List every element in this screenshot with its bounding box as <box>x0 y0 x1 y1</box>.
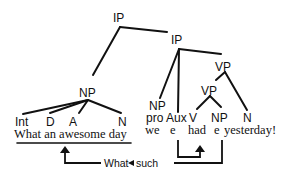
node-ip-top: IP <box>113 11 124 25</box>
branch-ip-to-np-pro <box>160 49 179 98</box>
node-np-subject: NP <box>79 86 96 100</box>
branch-ip-top-to-np <box>93 27 120 75</box>
word-yesterday: yesterday! <box>224 123 276 137</box>
word-e-aux: e <box>170 123 176 137</box>
word-had: had <box>188 123 207 137</box>
branch-vp-to-n <box>225 72 247 110</box>
word-e-obj: e <box>214 123 220 137</box>
tree-branches <box>23 27 247 114</box>
arrowhead-left-such <box>128 160 134 166</box>
word-phrase: What an awesome day <box>14 127 128 141</box>
arrowhead-up-v <box>195 145 205 152</box>
branch-ip-to-vp <box>179 49 221 54</box>
arrow-aux-to-v <box>178 140 200 157</box>
arrow-what-to-phrase <box>65 152 101 163</box>
movement-label-what: What <box>104 157 129 169</box>
arrowhead-up-phrase <box>60 146 70 153</box>
syntax-tree-diagram: IP IP NP VP VP NP Int D A N pro Aux V NP… <box>0 0 294 177</box>
branch-np-to-n <box>88 100 121 113</box>
branch-ip-top-to-ip <box>120 27 167 32</box>
branch-ip-to-aux <box>178 49 179 112</box>
movement-label-such: such <box>136 157 158 169</box>
node-ip-inner: IP <box>171 33 182 47</box>
node-vp-outer: VP <box>215 60 231 74</box>
node-vp-inner: VP <box>201 84 217 98</box>
word-we: we <box>145 123 160 137</box>
